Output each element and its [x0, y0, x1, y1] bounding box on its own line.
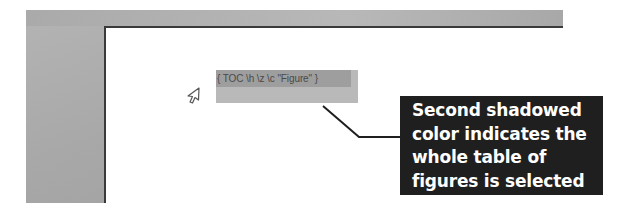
callout-text-line-4: figures is selected [412, 170, 603, 194]
annotation-callout: Second shadowed color indicates the whol… [400, 96, 603, 195]
callout-text-line-3: whole table of [412, 146, 603, 170]
window-top-band [26, 10, 563, 26]
toc-field-code[interactable]: { TOC \h \z \c "Figure" } [217, 71, 318, 86]
callout-text-line-2: color indicates the [412, 123, 603, 147]
callout-text-line-1: Second shadowed [412, 99, 603, 123]
mouse-pointer-arrow-icon [186, 87, 202, 105]
